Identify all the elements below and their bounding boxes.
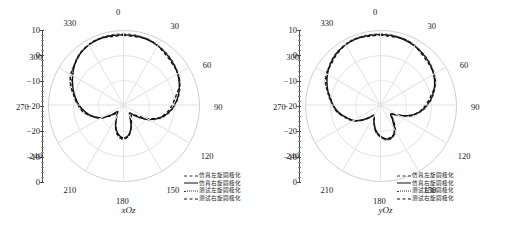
angle-label-90: 90 — [214, 103, 223, 112]
legend-label: 测试右旋圆极化 — [412, 195, 454, 203]
radial-minor-tick — [41, 45, 44, 46]
radial-minor-tick — [298, 101, 301, 102]
angle-label-30: 30 — [428, 22, 437, 31]
radial-minor-tick — [298, 172, 301, 173]
radial-tick-label: 10 — [6, 26, 40, 34]
radial-tick — [297, 81, 301, 82]
radial-minor-tick — [41, 91, 44, 92]
radial-tick — [297, 131, 301, 132]
radial-minor-tick — [298, 121, 301, 122]
angle-label-90: 90 — [471, 103, 480, 112]
legend-label: 测试左旋圆极化 — [199, 187, 241, 195]
radial-tick — [40, 81, 44, 82]
radial-minor-tick — [298, 96, 301, 97]
radial-minor-tick — [41, 76, 44, 77]
angle-label-240: 240 — [29, 152, 42, 161]
radial-minor-tick — [41, 65, 44, 66]
radial-minor-tick — [298, 45, 301, 46]
angle-label-270: 270 — [16, 103, 29, 112]
radial-minor-tick — [298, 116, 301, 117]
radial-minor-tick — [298, 111, 301, 112]
radial-tick-label: −10 — [6, 77, 40, 85]
angle-label-0: 0 — [373, 8, 377, 17]
radial-minor-tick — [298, 35, 301, 36]
radial-minor-tick — [41, 101, 44, 102]
radial-tick — [297, 182, 301, 183]
legend-item[interactable]: 测试右旋圆极化 — [184, 195, 241, 203]
panel-yoz: 100−10−20−20−100 yOz 仿真左旋圆极化仿真右旋圆极化测试左旋圆… — [257, 8, 514, 239]
angle-label-210: 210 — [64, 186, 77, 195]
angle-label-120: 120 — [458, 152, 471, 161]
radial-minor-tick — [41, 40, 44, 41]
radial-minor-tick — [41, 167, 44, 168]
radial-minor-tick — [298, 91, 301, 92]
legend-line-dash-dash-icon — [184, 172, 198, 179]
radial-tick-label: −10 — [263, 77, 297, 85]
angle-label-300: 300 — [286, 53, 299, 62]
angle-label-180: 180 — [116, 197, 129, 206]
radial-minor-tick — [41, 177, 44, 178]
radial-minor-tick — [298, 126, 301, 127]
radial-minor-tick — [298, 71, 301, 72]
radial-tick-label: −20 — [6, 127, 40, 135]
radial-minor-tick — [298, 136, 301, 137]
legend-line-thick-dash-icon — [397, 195, 411, 202]
angle-label-300: 300 — [29, 53, 42, 62]
radial-axis-xoz: 100−10−20−20−100 — [42, 30, 45, 182]
angle-label-180: 180 — [373, 197, 386, 206]
legend-label: 测试右旋圆极化 — [199, 195, 241, 203]
angle-label-120: 120 — [201, 152, 214, 161]
radial-tick-label: 10 — [263, 26, 297, 34]
radial-minor-tick — [41, 35, 44, 36]
radial-tick — [297, 106, 301, 107]
angle-label-270: 270 — [273, 103, 286, 112]
radial-tick — [40, 106, 44, 107]
polar-grid-xoz — [48, 30, 200, 182]
angle-label-0: 0 — [116, 8, 120, 17]
radial-minor-tick — [41, 116, 44, 117]
radial-minor-tick — [41, 147, 44, 148]
legend-label: 仿真左旋圆极化 — [412, 172, 454, 180]
polar-grid-yoz — [305, 30, 457, 182]
radial-minor-tick — [298, 141, 301, 142]
radial-minor-tick — [41, 121, 44, 122]
radial-minor-tick — [41, 126, 44, 127]
radial-tick — [40, 131, 44, 132]
radial-minor-tick — [298, 76, 301, 77]
radial-minor-tick — [41, 111, 44, 112]
legend-item[interactable]: 仿真左旋圆极化 — [397, 172, 454, 180]
radial-minor-tick — [41, 162, 44, 163]
angle-label-330: 330 — [321, 19, 334, 28]
radial-axis-yoz: 100−10−20−20−100 — [299, 30, 302, 182]
radial-minor-tick — [41, 172, 44, 173]
legend-item[interactable]: 仿真左旋圆极化 — [184, 172, 241, 180]
legend-line-solid-icon — [184, 180, 198, 187]
radial-minor-tick — [298, 177, 301, 178]
series-curve-0 — [72, 34, 181, 139]
legend-line-thick-dash-icon — [184, 195, 198, 202]
caption-yoz: yOz — [257, 205, 514, 215]
radial-minor-tick — [298, 167, 301, 168]
radial-minor-tick — [298, 147, 301, 148]
angle-label-330: 330 — [64, 19, 77, 28]
angle-label-150: 150 — [424, 186, 437, 195]
radial-tick-label: 0 — [6, 178, 40, 186]
radial-minor-tick — [298, 86, 301, 87]
series-curve-1 — [72, 35, 179, 138]
angle-label-30: 30 — [171, 22, 180, 31]
legend-item[interactable]: 测试左旋圆极化 — [184, 187, 241, 195]
caption-xoz: xOz — [0, 205, 257, 215]
radial-minor-tick — [41, 71, 44, 72]
angle-label-210: 210 — [321, 186, 334, 195]
radial-minor-tick — [298, 65, 301, 66]
legend-item[interactable]: 测试右旋圆极化 — [397, 195, 454, 203]
radial-tick — [40, 30, 44, 31]
panel-xoz: 100−10−20−20−100 xOz 仿真左旋圆极化仿真右旋圆极化测试左旋圆… — [0, 8, 257, 239]
radial-tick — [297, 30, 301, 31]
radial-minor-tick — [41, 141, 44, 142]
angle-label-60: 60 — [203, 61, 212, 70]
legend-line-dotted-icon — [184, 187, 198, 194]
radial-minor-tick — [298, 162, 301, 163]
radial-minor-tick — [41, 96, 44, 97]
radial-tick-label: −20 — [263, 127, 297, 135]
